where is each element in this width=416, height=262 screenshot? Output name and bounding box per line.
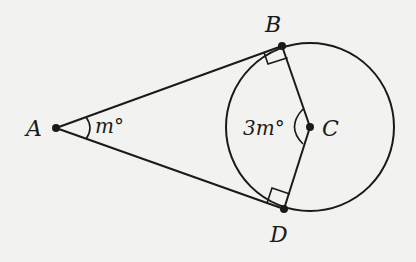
angle-arc-a [86, 117, 90, 139]
angle-label-a: m° [95, 114, 124, 138]
label-a: A [24, 116, 42, 141]
label-d: D [269, 222, 288, 247]
point-d [280, 205, 288, 213]
angle-arc-c [295, 109, 304, 144]
label-c: C [322, 116, 339, 141]
segment-ad [56, 128, 284, 209]
point-b [278, 42, 286, 50]
geometry-diagram: A B C D m° 3m° [0, 0, 416, 262]
point-a [52, 124, 60, 132]
point-c [306, 123, 314, 131]
label-b: B [264, 12, 281, 37]
radius-cd [284, 127, 310, 209]
angle-label-c: 3m° [243, 116, 285, 140]
